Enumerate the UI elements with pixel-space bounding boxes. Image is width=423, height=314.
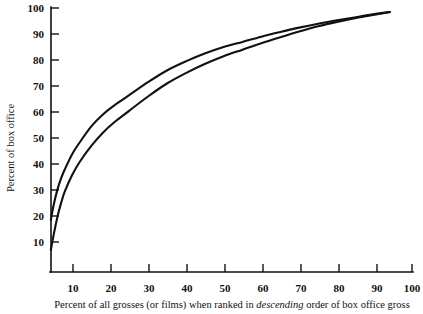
x-tick-label-70: 70 [296,282,308,294]
x-tick-label-60: 60 [258,282,270,294]
x-axis-tick-labels: 10 20 30 40 50 60 70 80 90 100 [68,282,421,294]
x-axis-title-after: order of box office gross [304,299,410,310]
x-tick-label-30: 30 [144,282,156,294]
y-axis: 100 90 80 70 60 50 40 30 20 10 Percent o… [5,2,59,272]
y-axis-tick-labels: 100 90 80 70 60 50 40 30 20 10 [28,2,45,248]
x-tick-label-20: 20 [106,282,118,294]
y-tick-label-50: 50 [33,132,45,144]
y-axis-title: Percent of box office [5,104,16,192]
y-tick-label-10: 10 [33,236,45,248]
concentration-curve-chart: 100 90 80 70 60 50 40 30 20 10 Percent o… [0,0,423,314]
x-tick-label-40: 40 [182,282,194,294]
chart-canvas: 100 90 80 70 60 50 40 30 20 10 Percent o… [0,0,423,314]
y-tick-label-70: 70 [33,80,45,92]
x-tick-label-80: 80 [334,282,346,294]
x-tick-label-90: 90 [372,282,384,294]
y-tick-label-60: 60 [33,106,45,118]
upper-concentration-curve [51,12,390,220]
y-tick-label-80: 80 [33,54,45,66]
x-tick-label-50: 50 [220,282,232,294]
x-axis: 10 20 30 40 50 60 70 80 90 100 Percent o… [50,264,421,311]
y-tick-label-40: 40 [33,158,45,170]
x-axis-title-emphasis: descending [256,299,303,310]
x-tick-label-10: 10 [68,282,80,294]
x-axis-ticks [73,264,412,272]
y-tick-label-100: 100 [28,2,45,14]
y-tick-label-90: 90 [33,28,45,40]
x-axis-title: Percent of all grosses (or films) when r… [54,299,410,311]
plot-curves [51,12,390,250]
y-tick-label-30: 30 [33,184,45,196]
y-tick-label-20: 20 [33,210,45,222]
x-tick-label-100: 100 [404,282,421,294]
x-axis-title-before: Percent of all grosses (or films) when r… [54,299,256,311]
